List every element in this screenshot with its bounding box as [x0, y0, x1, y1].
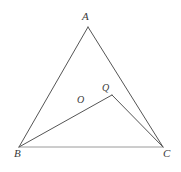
point-label-q: Q	[102, 82, 109, 93]
point-label-o: O	[77, 94, 84, 105]
side-ac	[88, 27, 163, 147]
segment-bq	[19, 95, 112, 147]
figure-line-group	[19, 27, 163, 147]
geometry-figure: A B C O Q	[0, 0, 181, 172]
vertex-label-a: A	[82, 11, 89, 22]
vertex-label-c: C	[163, 148, 170, 159]
vertex-label-b: B	[14, 148, 21, 159]
side-ab	[19, 27, 88, 147]
figure-canvas	[0, 0, 181, 172]
segment-qc	[112, 95, 163, 147]
